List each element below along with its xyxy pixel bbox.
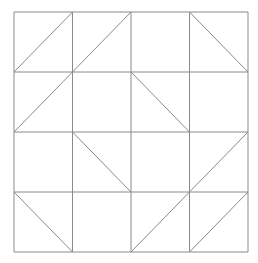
diagonal-rising bbox=[131, 192, 190, 252]
diagonal-falling bbox=[190, 12, 249, 72]
diagonal-rising bbox=[190, 132, 249, 192]
diagonal-rising bbox=[14, 72, 73, 132]
diagonal-falling bbox=[131, 72, 190, 132]
quilt-diagram bbox=[0, 0, 258, 263]
diagonal-falling bbox=[14, 192, 73, 252]
diagonal-rising bbox=[14, 12, 73, 72]
grid-canvas bbox=[0, 0, 258, 263]
diagonal-rising bbox=[190, 192, 249, 252]
diagonal-rising bbox=[73, 12, 132, 72]
diagonal-falling bbox=[73, 132, 132, 192]
